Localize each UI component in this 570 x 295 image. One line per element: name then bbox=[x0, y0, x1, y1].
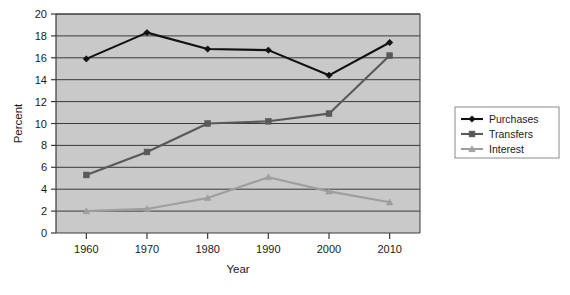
y-tick-label: 0 bbox=[41, 227, 47, 239]
legend-label: Interest bbox=[489, 143, 524, 155]
x-tick-label: 2010 bbox=[377, 243, 401, 255]
y-tick-label: 10 bbox=[35, 118, 47, 130]
marker-square bbox=[144, 149, 150, 155]
chart-figure: 0246810121416182019601970198019902000201… bbox=[0, 0, 570, 295]
y-axis-ticks: 02468101214161820 bbox=[35, 8, 56, 239]
y-tick-label: 16 bbox=[35, 52, 47, 64]
legend-label: Transfers bbox=[489, 128, 533, 140]
marker-square bbox=[469, 131, 475, 137]
marker-square bbox=[387, 53, 393, 59]
y-tick-label: 20 bbox=[35, 8, 47, 20]
y-axis-title: Percent bbox=[12, 103, 24, 143]
y-tick-label: 14 bbox=[35, 74, 47, 86]
marker-square bbox=[265, 118, 271, 124]
y-tick-label: 6 bbox=[41, 161, 47, 173]
y-tick-label: 12 bbox=[35, 96, 47, 108]
line-chart: 0246810121416182019601970198019902000201… bbox=[0, 0, 570, 295]
y-tick-label: 4 bbox=[41, 183, 47, 195]
x-tick-label: 1970 bbox=[135, 243, 159, 255]
x-axis-title: Year bbox=[226, 263, 249, 275]
legend: PurchasesTransfersInterest bbox=[455, 107, 559, 158]
y-tick-label: 8 bbox=[41, 139, 47, 151]
y-tick-label: 18 bbox=[35, 30, 47, 42]
marker-square bbox=[83, 172, 89, 178]
y-tick-label: 2 bbox=[41, 205, 47, 217]
legend-label: Purchases bbox=[489, 113, 539, 125]
x-tick-label: 1980 bbox=[195, 243, 219, 255]
x-tick-label: 1990 bbox=[256, 243, 280, 255]
marker-square bbox=[205, 121, 211, 127]
marker-square bbox=[326, 111, 332, 117]
x-tick-label: 1960 bbox=[74, 243, 98, 255]
x-tick-label: 2000 bbox=[317, 243, 341, 255]
x-axis-ticks: 196019701980199020002010 bbox=[74, 233, 402, 255]
